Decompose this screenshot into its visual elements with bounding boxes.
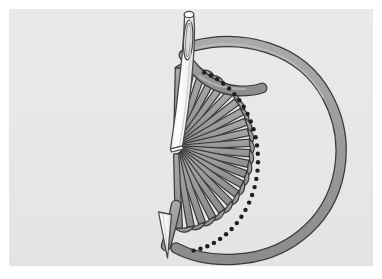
guide-dot (247, 200, 251, 204)
guide-dot (235, 221, 239, 225)
guide-dot (221, 81, 225, 85)
guide-dot (202, 70, 206, 74)
guide-dot (209, 73, 213, 77)
guide-dot (251, 127, 255, 131)
guide-dot (212, 241, 216, 245)
guide-dot (254, 177, 258, 181)
guide-dot (205, 244, 209, 248)
guide-dot (239, 215, 243, 219)
guide-dot (256, 160, 260, 164)
needle-head (184, 11, 194, 17)
guide-dot (253, 135, 257, 139)
guide-dot (255, 143, 259, 147)
guide-dot (218, 237, 222, 241)
guide-dot (191, 248, 195, 252)
figure-root: Buttonhole Wheel Embroidery Stitch Needl… (0, 0, 382, 279)
guide-dot (215, 77, 219, 81)
guide-dot (224, 232, 228, 236)
guide-dot (229, 227, 233, 231)
guide-dot (227, 86, 231, 90)
guide-dot (237, 98, 241, 102)
guide-dot (243, 208, 247, 212)
guide-dot (255, 168, 259, 172)
guide-dot (245, 112, 249, 116)
guide-dot (232, 92, 236, 96)
embroidery-stitch-diagram: Buttonhole Wheel Embroidery Stitch (0, 0, 382, 279)
guide-dot (252, 185, 256, 189)
guide-dot (256, 152, 260, 156)
guide-dot (249, 119, 253, 123)
guide-dot (242, 105, 246, 109)
guide-dot (250, 193, 254, 197)
guide-dot (198, 247, 202, 251)
